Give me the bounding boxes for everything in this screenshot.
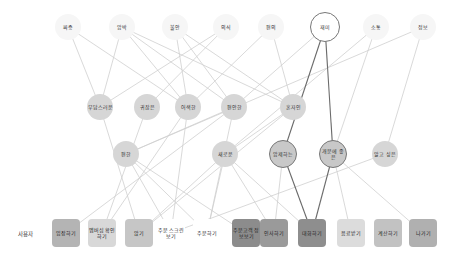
node-label: 개분에 좋은 — [320, 148, 346, 160]
action-label: 나가기 — [416, 230, 431, 236]
action-label: 주문 스크린 보기 — [157, 227, 185, 240]
action-label: 계산하기 — [378, 230, 398, 236]
node-b2: 귀찮은 — [134, 94, 160, 120]
node-label: 편의 — [266, 24, 276, 30]
action-label: 멤버십 확인하기 — [88, 227, 116, 240]
row-label-user: 사용자 — [18, 230, 33, 238]
edge — [325, 27, 333, 154]
node-b1: 부담스러운 — [87, 94, 113, 120]
node-label: 부담스러운 — [88, 104, 113, 110]
node-c3: 압제하는 — [269, 140, 297, 168]
node-label: 불안 — [170, 24, 180, 30]
node-a2: 압박 — [109, 14, 135, 40]
node-a1: 짜증 — [55, 14, 81, 40]
edge — [207, 107, 234, 233]
node-a8: 정보 — [410, 14, 436, 40]
node-a3: 불안 — [162, 14, 188, 40]
node-a6: 재미 — [310, 12, 340, 42]
node-label: 소통 — [371, 24, 381, 30]
edge — [102, 107, 188, 233]
node-label: 새로운 — [218, 151, 233, 157]
action-box-d11: 나가기 — [409, 219, 437, 247]
action-box-d1: 입장하기 — [52, 219, 80, 247]
action-label: 주문고객 정보보기 — [232, 227, 260, 240]
node-b5: 혼자인 — [280, 94, 306, 120]
edge — [102, 107, 147, 233]
node-a5: 편의 — [258, 14, 284, 40]
node-a7: 소통 — [363, 14, 389, 40]
action-box-d8: 대화하기 — [298, 219, 326, 247]
edge — [385, 27, 423, 154]
edge — [333, 27, 376, 154]
edge — [100, 107, 139, 233]
node-a4: 의식 — [213, 14, 239, 40]
node-label: 짜증 — [63, 24, 73, 30]
edge — [283, 27, 325, 154]
edge — [225, 27, 376, 154]
node-c2: 새로운 — [212, 141, 238, 167]
node-label: 혼자인 — [286, 104, 301, 110]
node-label: 어색한 — [181, 104, 196, 110]
node-label: 재미 — [320, 24, 330, 30]
action-box-d10: 계산하기 — [374, 219, 402, 247]
action-box-d5: 주문하기 — [193, 219, 221, 247]
node-c5: 알고 싶은 — [372, 141, 398, 167]
action-label: 인사하기 — [264, 230, 284, 236]
action-label: 대화하기 — [302, 230, 322, 236]
node-label: 편한 — [121, 151, 131, 157]
action-label: 주문하기 — [197, 230, 217, 236]
node-label: 압제하는 — [273, 151, 293, 157]
node-label: 귀찮은 — [140, 104, 155, 110]
node-b3: 어색한 — [175, 94, 201, 120]
action-box-d3: 앉기 — [125, 219, 153, 247]
node-label: 의식 — [221, 24, 231, 30]
action-box-d2: 멤버십 확인하기 — [88, 219, 116, 247]
edge — [139, 107, 293, 233]
action-box-d9: 음료받기 — [337, 219, 365, 247]
node-c4: 개분에 좋은 — [319, 140, 347, 168]
node-label: 압박 — [117, 24, 127, 30]
edge — [171, 107, 188, 233]
action-box-d6: 주문고객 정보보기 — [232, 219, 260, 247]
node-b4: 편안한 — [221, 94, 247, 120]
node-label: 알고 싶은 — [374, 151, 396, 157]
node-label: 정보 — [418, 24, 428, 30]
action-label: 음료받기 — [341, 230, 361, 236]
action-label: 앉기 — [134, 230, 144, 236]
action-box-d4: 주문 스크린 보기 — [157, 219, 185, 247]
action-box-d7: 인사하기 — [260, 219, 288, 247]
node-c1: 편한 — [113, 141, 139, 167]
node-label: 편안한 — [227, 104, 242, 110]
action-label: 입장하기 — [56, 230, 76, 236]
